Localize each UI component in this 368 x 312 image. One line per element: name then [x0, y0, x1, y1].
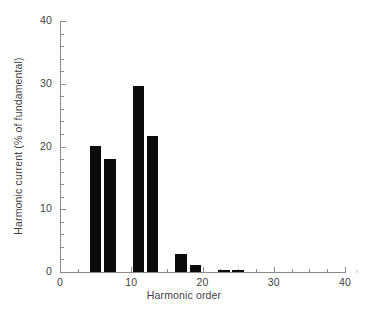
- x-tick-label: 0: [40, 276, 80, 288]
- x-axis-title: Harmonic order: [0, 289, 368, 301]
- plot-area: [60, 21, 345, 272]
- bar: [104, 159, 115, 272]
- bar: [190, 265, 201, 272]
- x-tick-label: 20: [183, 276, 223, 288]
- harmonic-spectrum-chart: 010203040010203040 Harmonic order Harmon…: [0, 0, 368, 312]
- x-axis-line: [60, 272, 346, 273]
- y-tick-label: 0: [20, 265, 52, 277]
- x-axis-major-tick: [345, 267, 346, 272]
- y-tick-label: 40: [20, 14, 52, 26]
- x-tick-label: 30: [254, 276, 294, 288]
- bar: [232, 270, 243, 272]
- y-tick-label: 10: [20, 202, 52, 214]
- y-tick-label: 30: [20, 77, 52, 89]
- bar: [218, 270, 229, 273]
- y-axis-major-tick: [61, 272, 66, 273]
- page-artifact-mark: «: [355, 268, 359, 275]
- bar: [133, 86, 144, 272]
- bar: [90, 146, 101, 272]
- bar: [147, 136, 158, 272]
- bar: [175, 254, 186, 272]
- x-tick-label: 10: [111, 276, 151, 288]
- y-axis-title: Harmonic current (% of fundamental): [12, 46, 24, 246]
- y-tick-label: 20: [20, 140, 52, 152]
- x-tick-label: 40: [325, 276, 365, 288]
